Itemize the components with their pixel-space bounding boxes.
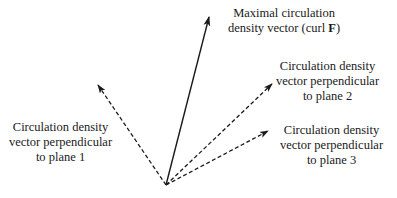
- curl-f-label: Maximal circulation density vector (curl…: [228, 6, 340, 36]
- curl-f-vector-arrow: [166, 17, 209, 185]
- plane3-vector-arrow: [166, 131, 268, 185]
- plane2-vector-arrow: [166, 84, 272, 185]
- curl-label-line2: density vector (curl F): [228, 21, 340, 36]
- circulation-density-diagram: Maximal circulation density vector (curl…: [0, 0, 397, 198]
- curl-label-line1: Maximal circulation: [228, 6, 340, 21]
- plane1-label: Circulation density vector perpendicular…: [9, 120, 112, 165]
- plane3-label: Circulation density vector perpendicular…: [280, 123, 383, 168]
- plane2-label: Circulation density vector perpendicular…: [276, 59, 379, 104]
